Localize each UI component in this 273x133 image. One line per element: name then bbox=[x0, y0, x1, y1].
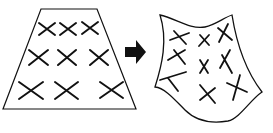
arrow-right-icon bbox=[125, 40, 146, 64]
target-warped-sheet bbox=[155, 15, 262, 122]
target-x-marks bbox=[160, 24, 247, 103]
transformation-diagram bbox=[0, 0, 273, 133]
source-x-marks bbox=[19, 22, 123, 99]
